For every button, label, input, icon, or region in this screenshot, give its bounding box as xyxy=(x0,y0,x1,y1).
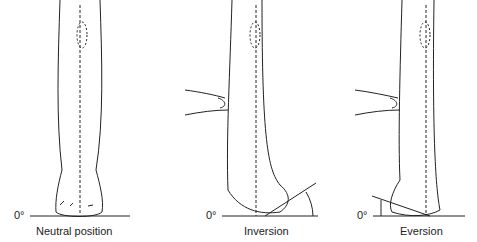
panel-label-inversion: Inversion xyxy=(244,225,289,237)
panel-neutral xyxy=(30,0,130,217)
toes xyxy=(56,201,102,217)
panel-label-neutral: Neutral position xyxy=(36,225,112,237)
foot-plane-line xyxy=(265,183,316,216)
foot-diagram xyxy=(0,0,477,242)
zero-degree-label: 0° xyxy=(357,209,368,221)
leg-outline xyxy=(227,0,288,213)
panel-eversion xyxy=(355,0,465,216)
panel-inversion xyxy=(185,0,318,216)
zero-degree-label: 0° xyxy=(14,209,25,221)
zero-degree-label: 0° xyxy=(206,209,217,221)
patella-dashed xyxy=(250,22,260,48)
angle-arc xyxy=(306,192,313,216)
hand xyxy=(185,90,228,115)
leg-outline xyxy=(390,0,440,216)
hand xyxy=(355,90,400,115)
patella-dashed xyxy=(420,22,430,48)
panel-label-eversion: Eversion xyxy=(400,225,443,237)
leg-outline xyxy=(56,0,103,212)
patella-dashed xyxy=(77,22,87,48)
